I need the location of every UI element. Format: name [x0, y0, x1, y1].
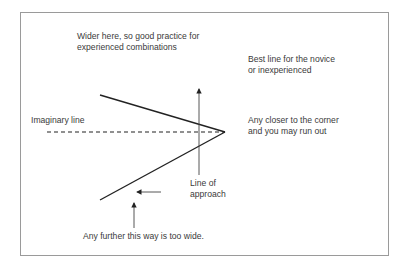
label-line-of-approach: Line ofapproach: [190, 178, 226, 200]
upper-line: [100, 95, 225, 132]
label-imaginary-line: Imaginary line: [31, 115, 85, 126]
label-wider: Wider here, so good practice forexperien…: [77, 31, 199, 53]
diagram-lines: [0, 0, 409, 273]
label-too-wide: Any further this way is too wide.: [83, 231, 204, 242]
label-closer: Any closer to the cornerand you may run …: [248, 115, 339, 137]
label-best-line: Best line for the noviceor inexperienced: [248, 54, 335, 76]
